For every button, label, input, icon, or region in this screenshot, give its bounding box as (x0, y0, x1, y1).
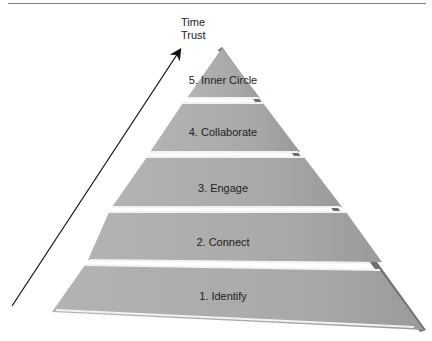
level-5-label: 5. Inner Circle (189, 74, 257, 86)
level-4-label: 4. Collaborate (189, 126, 258, 138)
level-3-label: 3. Engage (198, 182, 248, 194)
level-2-label: 2. Connect (196, 236, 249, 248)
level-1-label: 1. Identify (199, 290, 247, 302)
axis-label-trust: Trust (181, 29, 206, 42)
level-5-band (187, 48, 260, 98)
axis-label: Time Trust (181, 16, 206, 42)
axis-label-time: Time (181, 16, 206, 29)
